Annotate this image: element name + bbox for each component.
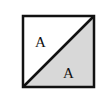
lower-region-label: A	[63, 65, 74, 81]
upper-region-label: A	[35, 34, 46, 50]
diagonal-split-square-diagram: A A	[0, 0, 102, 101]
